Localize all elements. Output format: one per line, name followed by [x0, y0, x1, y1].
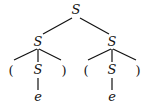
node-s-right-child: S: [108, 62, 117, 77]
node-root: S: [72, 2, 81, 17]
node-s-right: S: [108, 34, 117, 49]
node-rparen-left: ): [61, 63, 66, 78]
edge-s2-rp: [113, 49, 136, 60]
edge-root-s1: [43, 18, 72, 34]
edges: [14, 18, 136, 90]
node-lparen-right: (: [83, 63, 88, 78]
edge-root-s2: [80, 18, 109, 34]
edge-s1-rp: [39, 49, 61, 60]
node-lparen-left: (: [8, 63, 13, 78]
node-e-left: e: [34, 89, 42, 104]
edge-s1-lp: [14, 49, 37, 60]
parse-tree: S S S ( S ) ( S ) e e: [0, 0, 154, 109]
edge-s2-lp: [88, 49, 111, 60]
node-e-right: e: [108, 89, 116, 104]
node-rparen-right: ): [135, 63, 140, 78]
node-s-left: S: [34, 34, 43, 49]
node-s-left-child: S: [34, 62, 43, 77]
